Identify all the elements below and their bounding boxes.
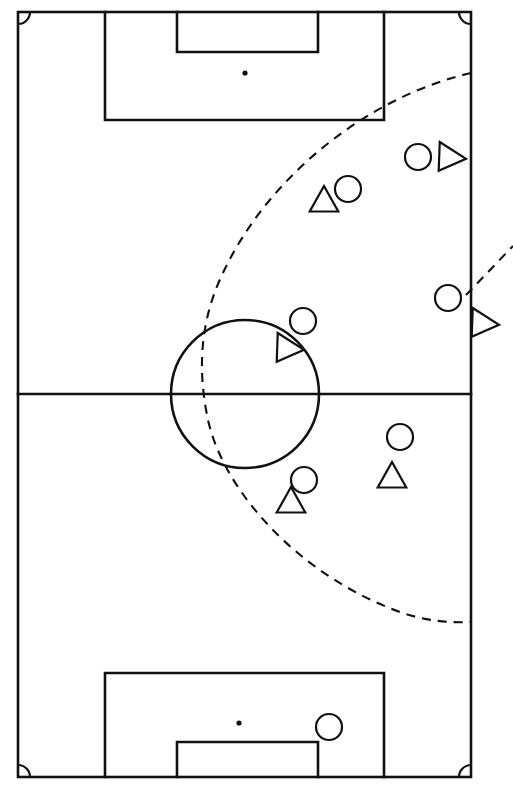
corner-arc-bottom-right xyxy=(459,765,471,777)
top-goal-area xyxy=(177,12,318,52)
player-circle-7 xyxy=(316,714,342,740)
pitch-diagram xyxy=(0,0,513,792)
top-penalty-spot xyxy=(242,70,247,75)
player-triangle-right-2 xyxy=(472,308,499,337)
player-circle-4 xyxy=(290,308,316,334)
top-penalty-area xyxy=(105,12,384,120)
bottom-goal-area xyxy=(177,742,318,777)
player-circle-3 xyxy=(435,285,461,311)
player-markers-layer xyxy=(277,142,499,740)
dashed-short-run-path xyxy=(466,246,513,295)
pitch-svg xyxy=(0,0,513,792)
corner-arc-top-left xyxy=(18,12,30,24)
player-circle-1 xyxy=(405,144,431,170)
player-circle-2 xyxy=(335,176,361,202)
player-circle-6 xyxy=(291,467,317,493)
player-circle-5 xyxy=(387,424,413,450)
corner-arc-bottom-left xyxy=(18,765,30,777)
bottom-penalty-spot xyxy=(236,720,241,725)
player-triangle-right-1 xyxy=(439,142,466,171)
player-triangle-up-2 xyxy=(378,462,407,487)
corner-arc-top-right xyxy=(459,12,471,24)
player-triangle-right-3 xyxy=(277,333,304,362)
